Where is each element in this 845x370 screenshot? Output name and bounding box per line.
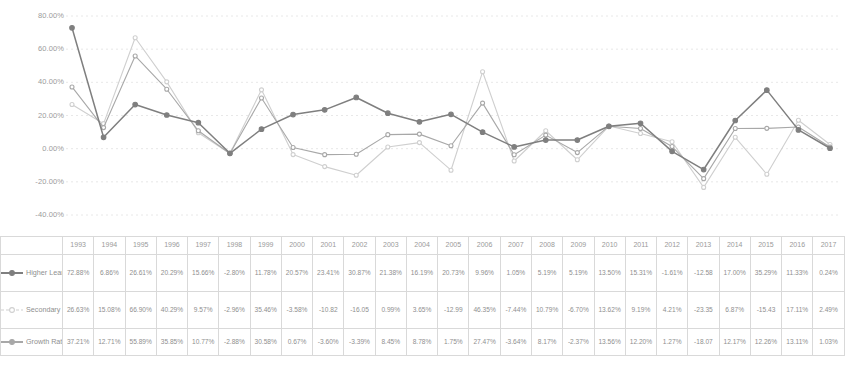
table-year-header-2003: 2003 — [375, 237, 406, 255]
table-cell: 12.20% — [625, 329, 656, 356]
table-year-header-2013: 2013 — [688, 237, 719, 255]
table-cell: 15.66% — [188, 255, 219, 292]
table-cell: 1.27% — [657, 329, 688, 356]
table-cell: -3.39% — [344, 329, 375, 356]
table-cell: -15.43 — [750, 292, 781, 329]
table-year-header-2016: 2016 — [782, 237, 813, 255]
table-cell: 5.19% — [531, 255, 562, 292]
table-cell: 6.86% — [94, 255, 125, 292]
table-cell: 3.65% — [406, 292, 437, 329]
table-cell: 8.17% — [531, 329, 562, 356]
table-cell: 8.45% — [375, 329, 406, 356]
table-cell: 4.21% — [657, 292, 688, 329]
table-year-header-1999: 1999 — [250, 237, 281, 255]
table-cell: -6.70% — [563, 292, 594, 329]
table-cell: -1.61% — [657, 255, 688, 292]
legend-marker-icon — [1, 305, 23, 315]
y-axis-tick-label: -40.00% — [20, 210, 64, 219]
table-cell: 9.57% — [188, 292, 219, 329]
table-cell: 8.78% — [406, 329, 437, 356]
table-cell: -18.07 — [688, 329, 719, 356]
table-cell: -3.58% — [281, 292, 312, 329]
table-cell: 21.38% — [375, 255, 406, 292]
table-row-label: Growth Rate — [26, 337, 63, 347]
table-cell: 11.78% — [250, 255, 281, 292]
table-year-header-2004: 2004 — [406, 237, 437, 255]
table-cell: 1.05% — [500, 255, 531, 292]
table-cell: -12.99 — [438, 292, 469, 329]
table-year-header-2002: 2002 — [344, 237, 375, 255]
table-cell: 16.19% — [406, 255, 437, 292]
table-row-legend-3: Growth Rate — [1, 329, 63, 356]
table-year-header-2001: 2001 — [313, 237, 344, 255]
table-year-header-1994: 1994 — [94, 237, 125, 255]
table-year-header-2009: 2009 — [563, 237, 594, 255]
table-cell: 72.88% — [63, 255, 94, 292]
table-year-header-2011: 2011 — [625, 237, 656, 255]
table-cell: 11.33% — [782, 255, 813, 292]
table-cell: -2.88% — [219, 329, 250, 356]
table-cell: -2.80% — [219, 255, 250, 292]
table-cell: 0.99% — [375, 292, 406, 329]
table-year-header-2010: 2010 — [594, 237, 625, 255]
table-cell: 17.11% — [782, 292, 813, 329]
table-cell: -7.44% — [500, 292, 531, 329]
table-cell: 20.73% — [438, 255, 469, 292]
table-cell: -10.82 — [313, 292, 344, 329]
table-cell: 30.87% — [344, 255, 375, 292]
table-cell: 5.19% — [563, 255, 594, 292]
table-cell: 20.57% — [281, 255, 312, 292]
table-cell: 35.29% — [750, 255, 781, 292]
table-cell: 0.67% — [281, 329, 312, 356]
y-axis-tick-label: 20.00% — [20, 111, 64, 120]
table-cell: 13.56% — [594, 329, 625, 356]
table-cell: 27.47% — [469, 329, 500, 356]
table-year-header-2015: 2015 — [750, 237, 781, 255]
table-cell: 6.87% — [719, 292, 750, 329]
chart-series — [70, 26, 833, 172]
table-cell: 35.85% — [156, 329, 187, 356]
table-row: Growth Rate37.21%12.71%55.89%35.85%10.77… — [1, 329, 845, 356]
table-cell: 15.31% — [625, 255, 656, 292]
table-row: Secondary Vocational School26.63%15.08%6… — [1, 292, 845, 329]
line-chart: 80.00%60.00%40.00%20.00%0.00%-20.00%-40.… — [0, 0, 844, 240]
y-axis-tick-label: 80.00% — [20, 11, 64, 20]
table-row-legend-2: Secondary Vocational School — [1, 292, 63, 329]
table-cell: 17.00% — [719, 255, 750, 292]
table-cell: -16.05 — [344, 292, 375, 329]
table-cell: 1.75% — [438, 329, 469, 356]
table-corner-cell — [1, 237, 63, 255]
table-cell: 13.62% — [594, 292, 625, 329]
table-cell: -3.64% — [500, 329, 531, 356]
table-year-header-2006: 2006 — [469, 237, 500, 255]
table-cell: 37.21% — [63, 329, 94, 356]
table-cell: 2.49% — [813, 292, 844, 329]
table-cell: 10.79% — [531, 292, 562, 329]
data-table: 1993199419951996199719981999200020012002… — [0, 236, 845, 356]
table-cell: -2.37% — [563, 329, 594, 356]
table-cell: 1.03% — [813, 329, 844, 356]
table-year-header-1995: 1995 — [125, 237, 156, 255]
table-cell: 9.19% — [625, 292, 656, 329]
chart-plot-svg — [0, 0, 844, 240]
table-cell: 0.24% — [813, 255, 844, 292]
chart-series — [70, 54, 832, 181]
table-cell: 20.29% — [156, 255, 187, 292]
table-year-header-1997: 1997 — [188, 237, 219, 255]
table-cell: 46.35% — [469, 292, 500, 329]
table-row: Higher Learning Institutes72.88%6.86%26.… — [1, 255, 845, 292]
table-year-header-2012: 2012 — [657, 237, 688, 255]
table-cell: -12.58 — [688, 255, 719, 292]
table-cell: 35.46% — [250, 292, 281, 329]
table-year-header-1998: 1998 — [219, 237, 250, 255]
y-axis-tick-label: 40.00% — [20, 77, 64, 86]
table-row-label: Secondary Vocational School — [26, 305, 63, 315]
table-cell: -23.35 — [688, 292, 719, 329]
table-year-header-2008: 2008 — [531, 237, 562, 255]
y-axis-tick-label: -20.00% — [20, 177, 64, 186]
table-cell: 26.63% — [63, 292, 94, 329]
table-year-header-2000: 2000 — [281, 237, 312, 255]
table-cell: 15.08% — [94, 292, 125, 329]
table-cell: 23.41% — [313, 255, 344, 292]
